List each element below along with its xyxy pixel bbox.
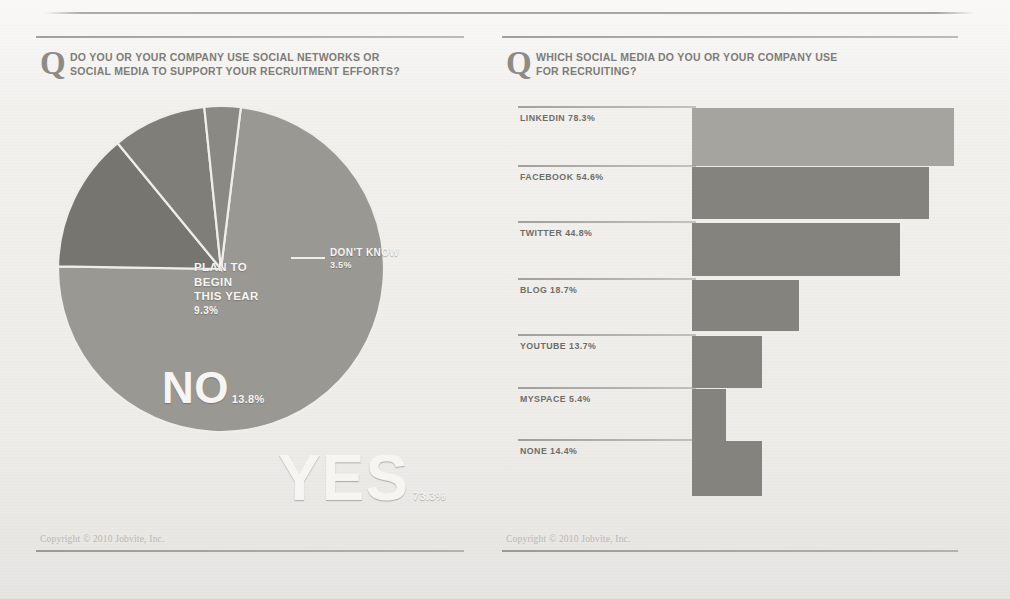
left-question-line-1: DO YOU OR YOUR COMPANY USE SOCIAL NETWOR…: [70, 51, 400, 65]
pie-label-plan-line-1: PLAN TO: [194, 260, 259, 275]
left-question-text: DO YOU OR YOUR COMPANY USE SOCIAL NETWOR…: [70, 48, 400, 78]
pie-label-yes-text: YES: [278, 442, 409, 514]
pie-label-no-text: NO: [162, 363, 229, 412]
pie-label-yes-pct: 73.3%: [413, 490, 446, 502]
bar-label: BLOG 18.7%: [520, 285, 577, 295]
bar-chart-panel: Q WHICH SOCIAL MEDIA DO YOU OR YOUR COMP…: [502, 36, 958, 566]
bar-rect: [692, 223, 900, 276]
panel-bottom-rule: [36, 550, 464, 552]
pie-label-dont-know-pct: 3.5%: [330, 259, 399, 272]
pie-label-dont-know-text: DON'T KNOW: [330, 246, 399, 259]
question-mark-glyph: Q: [506, 48, 536, 78]
right-question-text: WHICH SOCIAL MEDIA DO YOU OR YOUR COMPAN…: [536, 48, 838, 78]
top-divider-rule: [44, 12, 974, 14]
dont-know-leader-line: [291, 257, 325, 259]
bar-label: FACEBOOK 54.6%: [520, 172, 604, 182]
question-mark-glyph: Q: [40, 48, 70, 78]
bar-rect: [692, 441, 762, 496]
pie-label-yes: YES73.3%: [278, 446, 446, 528]
bar-row-rule: [518, 221, 696, 223]
right-question-line-2: FOR RECRUITING?: [536, 65, 838, 79]
left-question-line-2: SOCIAL MEDIA TO SUPPORT YOUR RECRUITMENT…: [70, 65, 400, 79]
left-copyright-footer: Copyright © 2010 Jobvite, Inc.: [40, 534, 165, 544]
bar-row-rule: [518, 165, 696, 167]
pie-chart-area: DON'T KNOW 3.5% PLAN TO BEGIN THIS YEAR …: [36, 94, 464, 514]
bar-label: LINKEDIN 78.3%: [520, 113, 595, 123]
pie-chart-panel: Q DO YOU OR YOUR COMPANY USE SOCIAL NETW…: [36, 36, 464, 566]
pie-label-no: NO13.8%: [162, 366, 265, 421]
bar-row-rule: [518, 278, 696, 280]
pie-label-no-pct: 13.8%: [232, 393, 265, 405]
pie-label-plan-line-2: BEGIN: [194, 275, 259, 290]
pie-label-plan-pct: 9.3%: [194, 304, 259, 319]
panel-top-rule: [502, 36, 958, 38]
bar-chart-area: LINKEDIN 78.3%FACEBOOK 54.6%TWITTER 44.8…: [502, 94, 958, 524]
bar-rect: [692, 389, 726, 441]
right-question-line-1: WHICH SOCIAL MEDIA DO YOU OR YOUR COMPAN…: [536, 51, 838, 65]
bar-row-rule: [518, 106, 696, 108]
bar-label: MYSPACE 5.4%: [520, 394, 591, 404]
bar-rect: [692, 336, 762, 388]
pie-label-plan-to-begin: PLAN TO BEGIN THIS YEAR 9.3%: [194, 260, 259, 318]
pie-label-dont-know: DON'T KNOW 3.5%: [330, 246, 399, 272]
right-question-header: Q WHICH SOCIAL MEDIA DO YOU OR YOUR COMP…: [506, 48, 958, 78]
bar-rect: [692, 108, 954, 166]
pie-label-plan-line-3: THIS YEAR: [194, 289, 259, 304]
bar-rect: [692, 280, 799, 331]
panel-bottom-rule: [502, 550, 958, 552]
bar-label: YOUTUBE 13.7%: [520, 341, 596, 351]
bar-row-rule: [518, 334, 696, 336]
panel-top-rule: [36, 36, 464, 38]
bar-label: NONE 14.4%: [520, 446, 577, 456]
bar-rect: [692, 167, 929, 219]
bar-row-rule: [518, 387, 696, 389]
bar-label: TWITTER 44.8%: [520, 228, 592, 238]
bar-row-rule: [518, 439, 696, 441]
right-copyright-footer: Copyright © 2010 Jobvite, Inc.: [506, 534, 631, 544]
left-question-header: Q DO YOU OR YOUR COMPANY USE SOCIAL NETW…: [40, 48, 464, 78]
